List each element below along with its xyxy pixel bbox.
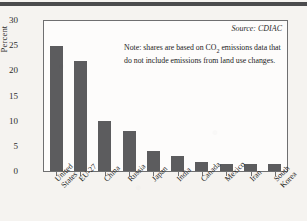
y-tick-label: 15 [0, 91, 18, 101]
bar-series [44, 21, 287, 171]
bar-slot [238, 21, 262, 171]
bar [123, 131, 136, 171]
bar-slot [190, 21, 214, 171]
figure: Percent 051015202530 Source: CDIAC Note:… [0, 0, 307, 221]
y-tick-label: 0 [0, 166, 18, 176]
bar-slot [93, 21, 117, 171]
bar-slot [165, 21, 189, 171]
y-tick-label: 20 [0, 65, 18, 75]
y-tick-label: 5 [0, 141, 18, 151]
bar-slot [68, 21, 92, 171]
bar [98, 121, 111, 171]
bar-slot [44, 21, 68, 171]
y-tick-label: 30 [0, 15, 18, 25]
bar-slot [141, 21, 165, 171]
bar-slot [117, 21, 141, 171]
bar-slot [263, 21, 287, 171]
top-rule-divider [0, 2, 307, 6]
bar-slot [214, 21, 238, 171]
bar [74, 61, 87, 171]
y-tick-label: 25 [0, 40, 18, 50]
y-tick-label: 10 [0, 116, 18, 126]
bar [50, 46, 63, 171]
